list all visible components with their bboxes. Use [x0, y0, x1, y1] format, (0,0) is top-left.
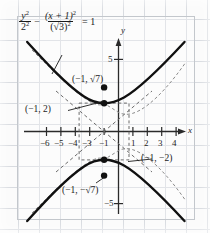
x-tick-2: 2 — [144, 139, 149, 148]
eq-den2: (√3) — [50, 22, 67, 32]
x-tick-minus4: −4 — [68, 139, 78, 148]
point-upper-vertex — [101, 100, 107, 106]
lower-branch-curve — [27, 160, 184, 221]
x-tick-3: 3 — [158, 139, 163, 148]
eq-num1-exp: 2 — [26, 9, 29, 16]
y-axis-label: y — [121, 26, 125, 35]
x-tick-minus6: −6 — [40, 139, 50, 148]
y-tick-5: 5 — [108, 55, 113, 64]
label-lower-focus: (−1, −√7) — [62, 186, 99, 196]
y-axis-arrow — [116, 38, 122, 46]
figure-canvas: y2 22 − (x + 1)2 (√3)2 = 1 x y −6 −5 −4 … — [0, 0, 210, 233]
eq-minus: − — [32, 17, 42, 27]
equation-fraction-left: y2 22 — [19, 11, 31, 32]
leader-lower-focus — [96, 178, 104, 184]
eq-equals: = 1 — [79, 17, 95, 27]
eq-den1-exp: 2 — [26, 20, 29, 27]
x-tick-1: 1 — [131, 139, 136, 148]
label-upper-vertex: (−1, 2) — [25, 105, 51, 115]
x-tick-4: 4 — [172, 139, 177, 148]
x-tick-minus5: −5 — [54, 139, 64, 148]
y-tick-minus5: −5 — [104, 199, 114, 208]
point-lower-vertex — [101, 157, 107, 163]
x-axis-label: x — [188, 126, 192, 135]
equation-fraction-right: (x + 1)2 (√3)2 — [43, 11, 78, 32]
equation: y2 22 − (x + 1)2 (√3)2 = 1 — [19, 11, 95, 32]
eq-num2-exp: 2 — [73, 9, 76, 16]
leader-upper-branch — [52, 55, 62, 74]
point-upper-focus — [101, 84, 107, 90]
eq-den2-exp: 2 — [67, 20, 70, 27]
x-tick-minus3: −3 — [82, 139, 92, 148]
label-upper-focus: (−1, √7) — [72, 75, 103, 85]
upper-branch-curve — [27, 42, 184, 103]
x-axis-arrow — [178, 129, 186, 135]
x-tick-minus1: −1 — [99, 139, 109, 148]
label-lower-vertex: (−1, −2) — [141, 154, 172, 164]
